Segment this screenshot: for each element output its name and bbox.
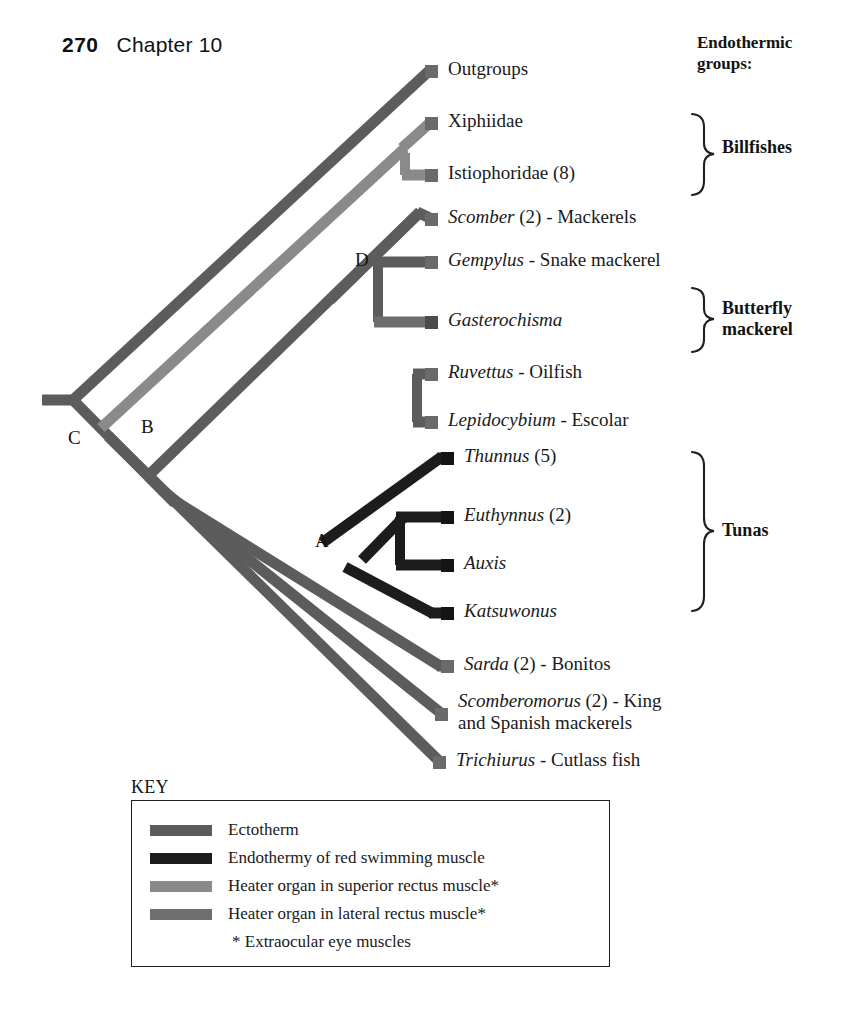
tip-label-scomberomorus: Scomberomorus (2) - Kingand Spanish mack… — [458, 690, 662, 734]
tip-square-katsuwonus — [441, 607, 454, 620]
group-label-butterfly-line2: mackerel — [722, 319, 793, 340]
tip-square-istiophoridae — [425, 169, 438, 182]
tip-label-istiophoridae: Istiophoridae (8) — [448, 162, 575, 184]
key-list: Ectotherm Endothermy of red swimming mus… — [150, 816, 601, 956]
key-text-endotherm: Endothermy of red swimming muscle — [228, 848, 485, 868]
node-label-b: B — [141, 416, 154, 438]
branch-billfish-stem — [101, 148, 405, 428]
tip-square-gempylus — [425, 256, 438, 269]
key-box: Ectotherm Endothermy of red swimming mus… — [131, 800, 610, 967]
tip-square-sarda — [441, 660, 454, 673]
key-text-superior-rectus: Heater organ in superior rectus muscle* — [228, 876, 499, 896]
group-label-tunas-line1: Tunas — [722, 520, 768, 541]
key-swatch-ectotherm — [150, 825, 212, 836]
tip-square-scomberomorus — [435, 708, 448, 721]
tip-label-lepidocybium: Lepidocybium - Escolar — [448, 409, 628, 431]
tip-label-gasterochisma: Gasterochisma — [448, 309, 562, 331]
tip-label-euthynnus: Euthynnus (2) — [464, 504, 571, 526]
tip-square-thunnus — [441, 452, 454, 465]
group-label-tunas: Tunas — [722, 520, 768, 541]
tip-square-ruvettus — [425, 368, 438, 381]
group-label-butterfly-line1: Butterfly — [722, 298, 793, 319]
tip-square-auxis — [441, 559, 454, 572]
key-row-footnote: * Extraocular eye muscles — [150, 928, 601, 956]
tip-square-gasterochisma — [425, 316, 438, 329]
branch-trichiurus — [108, 436, 440, 762]
key-row-superior-rectus: Heater organ in superior rectus muscle* — [150, 872, 601, 900]
group-label-billfishes: Billfishes — [722, 137, 792, 158]
tip-label-xiphiidae: Xiphiidae — [448, 110, 523, 132]
group-brackets — [692, 114, 714, 611]
key-text-footnote: * Extraocular eye muscles — [228, 932, 411, 952]
tree-branches — [42, 70, 448, 762]
tip-label-trichiurus: Trichiurus - Cutlass fish — [456, 749, 640, 771]
tip-square-euthynnus — [441, 511, 454, 524]
key-swatch-endotherm — [150, 853, 212, 864]
tip-square-scomber — [425, 213, 438, 226]
tip-square-outgroups — [425, 65, 438, 78]
key-row-lateral-rectus: Heater organ in lateral rectus muscle* — [150, 900, 601, 928]
tip-label-gempylus: Gempylus - Snake mackerel — [448, 249, 661, 271]
endothermic-groups-heading-line1: Endothermic — [697, 32, 792, 53]
key-swatch-superior-rectus — [150, 881, 212, 892]
bracket-tunas — [692, 452, 714, 611]
tip-label-katsuwonus: Katsuwonus — [464, 600, 557, 622]
tip-square-xiphiidae — [425, 117, 438, 130]
tip-square-lepidocybium — [425, 416, 438, 429]
tip-label-auxis: Auxis — [464, 552, 506, 574]
branch-outgroups — [73, 70, 430, 400]
key-swatch-lateral-rectus — [150, 909, 212, 920]
key-text-lateral-rectus: Heater organ in lateral rectus muscle* — [228, 904, 486, 924]
node-label-d: D — [355, 249, 369, 271]
branch-a-stem — [322, 458, 440, 543]
node-label-a: A — [315, 530, 329, 552]
bracket-billfishes — [692, 114, 714, 195]
node-label-c: C — [68, 427, 81, 449]
key-title: KEY — [131, 777, 169, 798]
group-label-butterfly-mackerel: Butterfly mackerel — [722, 298, 793, 340]
group-label-billfishes-line1: Billfishes — [722, 137, 792, 158]
branch-a-cross — [345, 567, 432, 613]
endothermic-groups-heading-line2: groups: — [697, 53, 792, 74]
tip-label-sarda: Sarda (2) - Bonitos — [464, 653, 611, 675]
tip-label-scomber: Scomber (2) - Mackerels — [448, 206, 636, 228]
tip-label-ruvettus: Ruvettus - Oilfish — [448, 361, 582, 383]
key-swatch-spacer — [150, 937, 212, 948]
endothermic-groups-heading: Endothermic groups: — [697, 32, 792, 74]
bracket-butterfly-mackerel — [692, 288, 714, 352]
tip-label-outgroups: Outgroups — [448, 58, 528, 80]
key-text-ectotherm: Ectotherm — [228, 820, 299, 840]
tip-label-thunnus: Thunnus (5) — [464, 445, 556, 467]
key-row-endotherm: Endothermy of red swimming muscle — [150, 844, 601, 872]
key-row-ectotherm: Ectotherm — [150, 816, 601, 844]
tip-square-trichiurus — [433, 756, 446, 769]
